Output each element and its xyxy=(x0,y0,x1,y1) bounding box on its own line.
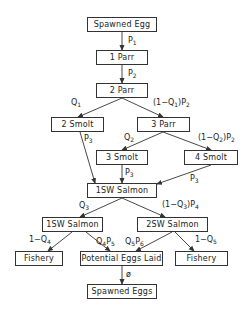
edge-label-p3-4smolt: P3 xyxy=(190,174,199,183)
node-spawned-egg: Spawned Egg xyxy=(87,17,157,32)
node-2sw-salmon: 2SW Salmon xyxy=(137,217,208,232)
node-potential-eggs-laid: Potential Eggs Laid xyxy=(80,251,163,266)
edge-label-q3: Q3 xyxy=(79,201,89,210)
edge-label-phi: ø xyxy=(126,270,131,279)
node-1sw-salmon: 1SW Salmon xyxy=(87,183,157,198)
node-2-parr: 2 Parr xyxy=(96,83,148,98)
node-1-parr: 1 Parr xyxy=(96,50,148,65)
edge-label-q5-p6: Q5P6 xyxy=(125,237,144,246)
node-3-parr: 3 Parr xyxy=(137,117,190,132)
edge-label-p1: P1 xyxy=(128,36,137,45)
edge-label-1-minus-q3-p4: (1−Q3)P4 xyxy=(162,200,199,209)
node-fishery-right: Fishery xyxy=(175,251,228,266)
edge-label-p2: P2 xyxy=(128,69,137,78)
node-fishery-left: Fishery xyxy=(15,251,63,266)
edge-label-q1: Q1 xyxy=(71,98,81,107)
edge-label-p3-2smolt: P3 xyxy=(84,134,93,143)
edge-label-1-minus-q4: 1−Q4 xyxy=(29,235,51,244)
node-2-smolt: 2 Smolt xyxy=(51,117,104,132)
node-spawned-eggs: Spawned Eggs xyxy=(87,284,157,299)
edge-label-1-minus-q5: 1−Q5 xyxy=(195,235,217,244)
edge-label-1-minus-q2-p2: (1−Q2)P2 xyxy=(198,133,235,142)
node-4-smolt: 4 Smolt xyxy=(184,150,238,165)
edge-label-q2: Q2 xyxy=(124,133,134,142)
edge-label-q4-p5: Q4P5 xyxy=(96,237,115,246)
salmon-life-cycle-diagram: Spawned Egg 1 Parr 2 Parr 2 Smolt 3 Parr… xyxy=(0,0,249,313)
edge-label-1-minus-q1-p2: (1−Q1)P2 xyxy=(153,98,190,107)
node-1sw-salmon-returning: 1SW Salmon xyxy=(42,217,103,232)
node-3-smolt: 3 Smolt xyxy=(96,150,148,165)
edge-label-p3-3smolt: P3 xyxy=(125,168,134,177)
